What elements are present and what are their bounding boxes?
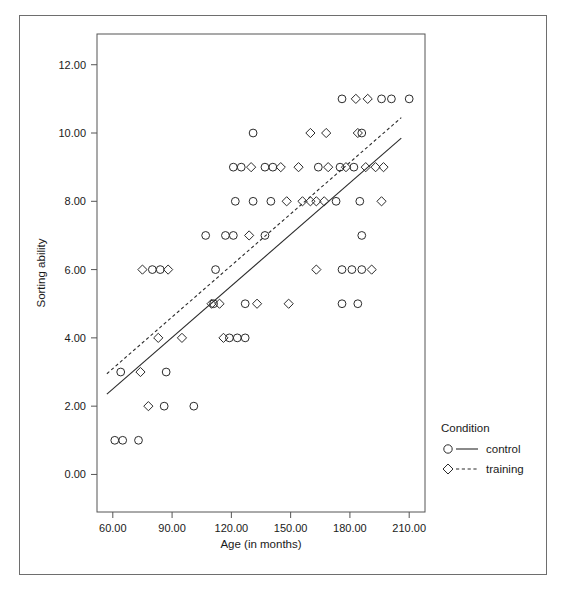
data-point-circle: [225, 334, 233, 342]
y-tick-label: 6.00: [65, 264, 86, 276]
data-point-diamond: [367, 265, 376, 274]
data-point-circle: [261, 163, 269, 171]
data-point-circle: [231, 197, 239, 205]
figure-container: 60.0090.00120.00150.00180.00210.00 0.002…: [0, 0, 567, 593]
data-point-circle: [405, 95, 413, 103]
data-point-circle: [119, 436, 127, 444]
data-point-diamond: [361, 163, 370, 172]
legend: Conditioncontroltraining: [441, 422, 524, 475]
data-points: [111, 94, 413, 444]
x-tick-label: 120.00: [215, 522, 249, 534]
data-point-circle: [190, 402, 198, 410]
scatter-plot: 60.0090.00120.00150.00180.00210.00 0.002…: [0, 0, 567, 593]
data-point-diamond: [324, 163, 333, 172]
data-point-circle: [358, 232, 366, 240]
data-point-circle: [388, 95, 396, 103]
data-point-circle: [314, 163, 322, 171]
data-point-diamond: [322, 128, 331, 137]
data-point-circle: [356, 197, 364, 205]
data-point-diamond: [136, 367, 145, 376]
regression-line-training: [107, 118, 401, 374]
data-point-circle: [135, 436, 143, 444]
data-point-diamond: [276, 163, 285, 172]
regression-lines: [107, 118, 401, 395]
data-point-diamond: [282, 197, 291, 206]
data-point-circle: [261, 232, 269, 240]
data-point-diamond: [247, 163, 256, 172]
x-tick-label: 90.00: [158, 522, 186, 534]
data-point-circle: [117, 368, 125, 376]
plot-frame: [97, 34, 425, 512]
data-point-diamond: [245, 231, 254, 240]
legend-label-training: training: [486, 463, 524, 475]
plot-frame-rect: [97, 34, 425, 512]
data-point-circle: [338, 95, 346, 103]
data-point-circle: [338, 300, 346, 308]
y-tick-label: 4.00: [65, 332, 86, 344]
data-point-circle: [358, 266, 366, 274]
data-point-diamond: [138, 265, 147, 274]
x-tick-label: 150.00: [274, 522, 308, 534]
y-tick-label: 12.00: [58, 59, 86, 71]
data-point-circle: [212, 266, 220, 274]
x-axis-ticks: 60.0090.00120.00150.00180.00210.00: [99, 512, 426, 534]
data-point-circle: [267, 197, 275, 205]
data-point-circle: [233, 334, 241, 342]
legend-title: Condition: [441, 422, 490, 434]
y-tick-label: 10.00: [58, 127, 86, 139]
data-point-circle: [162, 368, 170, 376]
data-point-circle: [338, 266, 346, 274]
data-point-circle: [241, 300, 249, 308]
data-point-circle: [249, 197, 257, 205]
data-point-circle: [354, 300, 362, 308]
x-tick-label: 60.00: [99, 522, 127, 534]
data-point-circle: [222, 232, 230, 240]
y-axis-ticks: 0.002.004.006.008.0010.0012.00: [58, 59, 97, 481]
data-point-diamond: [363, 94, 372, 103]
data-point-circle: [332, 197, 340, 205]
data-point-diamond: [312, 265, 321, 274]
data-point-circle: [202, 232, 210, 240]
data-point-diamond: [177, 333, 186, 342]
data-point-diamond: [252, 299, 261, 308]
data-point-diamond: [144, 402, 153, 411]
y-tick-label: 0.00: [65, 468, 86, 480]
y-axis-title: Sorting ability: [35, 238, 47, 307]
data-point-circle: [111, 436, 119, 444]
data-point-circle: [160, 402, 168, 410]
data-point-diamond: [443, 464, 453, 474]
data-point-circle: [348, 266, 356, 274]
data-point-circle: [229, 232, 237, 240]
data-point-circle: [148, 266, 156, 274]
data-point-circle: [229, 163, 237, 171]
x-axis-title: Age (in months): [220, 538, 301, 550]
y-tick-label: 8.00: [65, 195, 86, 207]
data-point-circle: [237, 163, 245, 171]
data-point-diamond: [154, 333, 163, 342]
y-tick-label: 2.00: [65, 400, 86, 412]
data-point-circle: [378, 95, 386, 103]
data-point-diamond: [294, 163, 303, 172]
data-point-circle: [249, 129, 257, 137]
x-tick-label: 210.00: [392, 522, 426, 534]
data-point-diamond: [284, 299, 293, 308]
data-point-diamond: [377, 197, 386, 206]
data-point-circle: [336, 163, 344, 171]
data-point-circle: [444, 445, 452, 453]
data-point-diamond: [164, 265, 173, 274]
legend-label-control: control: [486, 443, 521, 455]
data-point-circle: [241, 334, 249, 342]
x-tick-label: 180.00: [333, 522, 367, 534]
data-point-diamond: [306, 128, 315, 137]
data-point-diamond: [351, 94, 360, 103]
